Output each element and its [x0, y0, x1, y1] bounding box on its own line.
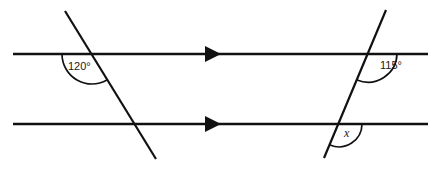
left-transversal	[65, 11, 156, 159]
angle-x-label: x	[343, 126, 350, 140]
lower-line-arrow-icon	[205, 116, 221, 132]
geometry-diagram-canvas: 120° 115° x	[0, 0, 439, 171]
upper-line-arrow-icon	[205, 46, 221, 62]
right-transversal	[324, 10, 386, 158]
geometry-figure: 120° 115° x	[0, 0, 439, 171]
angle-120-label: 120°	[68, 60, 91, 72]
angle-115-label: 115°	[380, 59, 402, 71]
